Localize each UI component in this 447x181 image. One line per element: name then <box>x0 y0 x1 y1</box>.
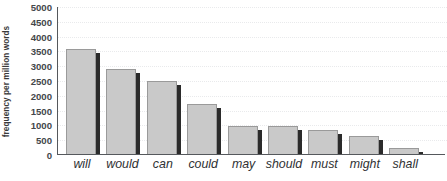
bar-shadow <box>419 152 423 154</box>
bar-body <box>147 81 177 154</box>
bar-body <box>66 49 96 154</box>
y-axis-tick-label: 3500 <box>31 46 52 57</box>
x-axis-tick-label: should <box>266 157 303 171</box>
x-axis-tick-label: must <box>311 157 338 171</box>
bar-body <box>308 130 338 154</box>
plot-area <box>57 7 445 155</box>
x-axis-tick-label: could <box>188 157 218 171</box>
bar-body <box>106 69 136 154</box>
bar-body <box>389 148 419 154</box>
bars-layer <box>58 7 445 154</box>
bar-body <box>349 136 379 154</box>
y-axis-tick-label: 3000 <box>31 61 52 72</box>
x-axis-tick-label: would <box>106 157 138 171</box>
y-axis-tick-label: 1000 <box>31 120 52 131</box>
bar[interactable] <box>268 126 302 154</box>
y-axis-tick-label: 2500 <box>31 76 52 87</box>
bar-shadow <box>298 130 302 154</box>
y-axis-tick-label: 5000 <box>31 2 52 13</box>
x-axis-tick-label: will <box>73 157 90 171</box>
bar-shadow <box>217 108 221 154</box>
y-axis-tick-label: 4500 <box>31 16 52 27</box>
x-axis-tick-label: might <box>350 157 380 171</box>
y-axis-tick-label: 500 <box>36 135 52 146</box>
y-axis-title-text: frequency per million words <box>3 25 12 136</box>
x-axis-tick-label: can <box>153 157 173 171</box>
y-axis-title: frequency per million words <box>0 0 14 162</box>
bar-body <box>228 126 258 154</box>
x-axis-tick-labels: willwouldcancouldmayshouldmustmightshall <box>57 157 445 181</box>
bar[interactable] <box>349 136 383 154</box>
bar[interactable] <box>106 69 140 154</box>
bar[interactable] <box>66 49 100 154</box>
bar[interactable] <box>389 148 423 154</box>
bar[interactable] <box>147 81 181 154</box>
bar-body <box>187 104 217 154</box>
y-axis-tick-label: 4000 <box>31 31 52 42</box>
y-axis-tick-label: 1500 <box>31 105 52 116</box>
bar-body <box>268 126 298 154</box>
bar[interactable] <box>308 130 342 154</box>
bar-shadow <box>258 130 262 154</box>
bar-shadow <box>136 73 140 154</box>
bar-shadow <box>379 140 383 154</box>
x-axis-tick-label: may <box>232 157 255 171</box>
bar-shadow <box>177 85 181 154</box>
y-axis-tick-labels: 5000450040003500300025002000150010005000 <box>14 0 56 162</box>
y-axis-tick-label: 2000 <box>31 90 52 101</box>
bar-shadow <box>96 53 100 154</box>
bar-shadow <box>338 134 342 154</box>
y-axis-tick-label: 0 <box>47 150 52 161</box>
bar[interactable] <box>187 104 221 154</box>
bar[interactable] <box>228 126 262 154</box>
x-axis-tick-label: shall <box>392 157 417 171</box>
